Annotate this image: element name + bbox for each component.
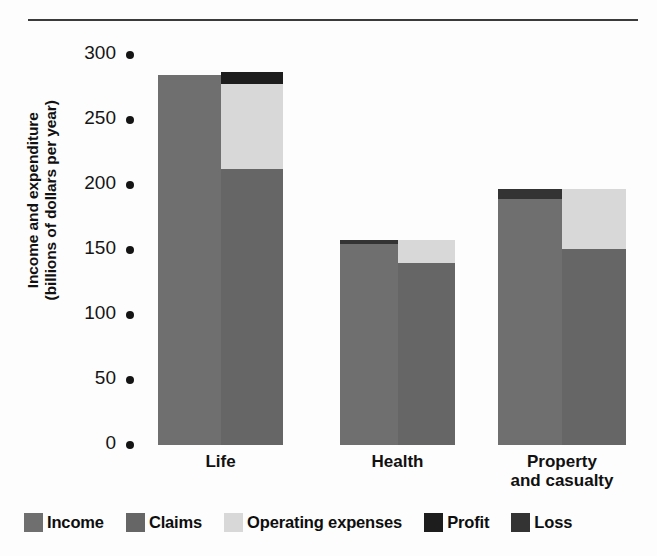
bar-group	[498, 55, 626, 445]
y-axis-tick-200: 200	[60, 177, 136, 193]
bar-segment-income[interactable]	[340, 244, 398, 446]
bar-segment-income[interactable]	[158, 75, 221, 446]
y-axis-tick-250: 250	[60, 112, 136, 128]
chart-figure: Income and expenditure (billions of doll…	[0, 0, 657, 556]
y-axis-tick-label: 200	[84, 175, 116, 191]
bar-segment-loss[interactable]	[340, 240, 398, 244]
legend-item-claims[interactable]: Claims	[126, 513, 202, 532]
y-axis-tick-dot-icon	[126, 311, 134, 319]
legend-item-operating_expenses[interactable]: Operating expenses	[224, 513, 402, 532]
bar-segment-income[interactable]	[498, 199, 562, 445]
y-axis-tick-dot-icon	[126, 51, 134, 59]
bar-segment-claims[interactable]	[562, 249, 626, 445]
y-axis-tick-dot-icon	[126, 116, 134, 124]
y-axis-tick-dot-icon	[126, 181, 134, 189]
legend-item-loss[interactable]: Loss	[511, 513, 572, 532]
y-axis-tick-label: 50	[95, 370, 116, 386]
y-axis-tick-label: 150	[84, 240, 116, 256]
y-axis-tick-100: 100	[60, 307, 136, 323]
bar-group	[340, 55, 455, 445]
legend-item-profit[interactable]: Profit	[424, 513, 489, 532]
legend-label-operating_expenses: Operating expenses	[247, 513, 402, 532]
category-label-line1: Life	[128, 452, 313, 471]
y-axis-tick-dot-icon	[126, 441, 134, 449]
plot-area	[146, 55, 638, 445]
legend-swatch-profit	[424, 513, 443, 532]
y-axis-tick-50: 50	[60, 372, 136, 388]
x-axis-category-label: Propertyand casualty	[468, 452, 656, 491]
bar-segment-operating-expenses[interactable]	[562, 189, 626, 249]
legend-label-claims: Claims	[149, 513, 202, 532]
x-axis-category-label: Health	[310, 452, 485, 471]
category-label-line1: Property	[468, 452, 656, 471]
y-axis-tick-label: 0	[105, 435, 116, 451]
y-axis-title-line2: (billions of dollars per year)	[42, 40, 60, 360]
bar-group	[158, 55, 283, 445]
chart-legend: IncomeClaimsOperating expensesProfitLoss	[24, 508, 644, 536]
legend-label-loss: Loss	[534, 513, 572, 532]
bar-segment-loss[interactable]	[498, 189, 562, 199]
y-axis-tick-label: 100	[84, 305, 116, 321]
bar-segment-operating-expenses[interactable]	[221, 84, 284, 170]
legend-item-income[interactable]: Income	[24, 513, 104, 532]
x-axis-category-label: Life	[128, 452, 313, 471]
y-axis-title: Income and expenditure (billions of doll…	[24, 40, 61, 360]
y-axis-tick-150: 150	[60, 242, 136, 258]
legend-swatch-income	[24, 513, 43, 532]
y-axis-tick-label: 300	[84, 45, 116, 61]
legend-swatch-loss	[511, 513, 530, 532]
y-axis-title-line1: Income and expenditure	[24, 112, 41, 288]
legend-label-profit: Profit	[447, 513, 489, 532]
bar-segment-operating-expenses[interactable]	[398, 240, 456, 263]
bar-segment-claims[interactable]	[398, 263, 456, 445]
legend-label-income: Income	[47, 513, 104, 532]
y-axis-tick-label: 250	[84, 110, 116, 126]
category-label-line2: and casualty	[468, 471, 656, 490]
bar-segment-profit[interactable]	[221, 72, 284, 84]
category-label-line1: Health	[310, 452, 485, 471]
y-axis-tick-300: 300	[60, 47, 136, 63]
top-rule-divider	[28, 19, 638, 21]
legend-swatch-operating_expenses	[224, 513, 243, 532]
bar-segment-claims[interactable]	[221, 169, 284, 445]
y-axis-tick-0: 0	[60, 437, 136, 453]
legend-swatch-claims	[126, 513, 145, 532]
y-axis-tick-dot-icon	[126, 376, 134, 384]
y-axis-tick-dot-icon	[126, 246, 134, 254]
